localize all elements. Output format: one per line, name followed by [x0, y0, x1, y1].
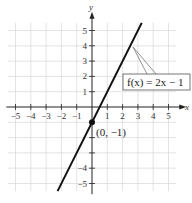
- x-tick-label: −3: [41, 111, 51, 121]
- y-tick-label: 2: [83, 71, 88, 81]
- y-tick-label: 5: [83, 26, 88, 36]
- x-tick-label: 2: [120, 111, 125, 121]
- y-tick-label: 3: [83, 56, 88, 66]
- x-tick-label: 3: [136, 111, 141, 121]
- y-tick-label: 1: [83, 87, 88, 97]
- coordinate-plane: −5−4−3−2−11234554321−4−5 (0, −1) f(x) = …: [0, 0, 192, 203]
- x-tick-label: 4: [151, 111, 156, 121]
- equation-label: f(x) = 2x − 1: [127, 76, 183, 89]
- x-tick-label: −4: [26, 111, 36, 121]
- x-tick-label: −2: [57, 111, 67, 121]
- y-axis-arrow-icon: [90, 12, 95, 19]
- y-tick-label: −5: [77, 179, 87, 189]
- y-intercept-point: [89, 119, 95, 125]
- point-label: (0, −1): [96, 126, 126, 139]
- x-axis-label: x: [184, 102, 189, 112]
- x-tick-label: 1: [105, 111, 110, 121]
- equation-callout: f(x) = 2x − 1: [123, 47, 190, 90]
- y-tick-label: 4: [83, 41, 88, 51]
- x-tick-label: −1: [72, 111, 82, 121]
- x-tick-label: −5: [11, 111, 21, 121]
- x-tick-label: 5: [166, 111, 171, 121]
- y-axis-label: y: [88, 2, 93, 12]
- y-tick-label: −4: [77, 163, 87, 173]
- axes: [6, 12, 186, 194]
